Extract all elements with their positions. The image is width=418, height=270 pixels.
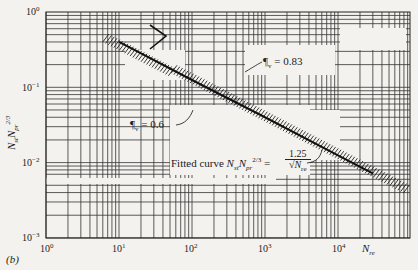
x-axis-label: Nre <box>362 243 375 257</box>
y-tick-1e-2: 10−2 <box>22 157 39 168</box>
y-tick-1e-1: 10−1 <box>22 82 39 93</box>
fitted-curve-fraction: 1.25 √Nre <box>285 149 311 173</box>
fitted-curve-label: Fitted curve NstNpr2/3 = <box>171 157 270 172</box>
annotation-eps-06: ¶v = 0.6 <box>130 119 164 133</box>
x-tick-1e1: 101 <box>112 243 126 254</box>
x-tick-1e0: 100 <box>40 243 54 254</box>
annotation-eps-083: ¶v = 0.83 <box>263 56 302 70</box>
x-tick-1e4: 104 <box>332 243 346 254</box>
y-tick-1e-3: 10−3 <box>22 232 39 243</box>
y-tick-1e0: 100 <box>26 6 40 17</box>
chart-plot-area <box>0 0 418 270</box>
y-axis-label: NstNpr2/3 <box>4 115 20 150</box>
x-tick-1e2: 102 <box>184 243 198 254</box>
panel-label: (b) <box>6 254 19 265</box>
x-tick-1e3: 103 <box>258 243 272 254</box>
